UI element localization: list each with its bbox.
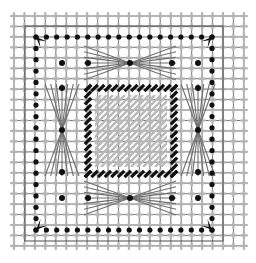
boundary-dot-right xyxy=(209,125,214,130)
boundary-dot-right xyxy=(209,159,214,164)
boundary-dot-bottom xyxy=(158,227,163,232)
interior-node-dot xyxy=(59,60,65,66)
interior-node-dot xyxy=(195,127,201,133)
boundary-dot-left xyxy=(33,137,38,142)
interior-node-dot xyxy=(195,195,201,201)
boundary-dot-left xyxy=(33,216,38,221)
interior-node-dot xyxy=(59,169,65,175)
boundary-dot-top xyxy=(168,34,173,39)
boundary-dot-right xyxy=(209,80,214,85)
interior-node-dot xyxy=(195,60,201,66)
boundary-dot-top xyxy=(116,34,121,39)
boundary-dot-top xyxy=(96,34,101,39)
boundary-dot-bottom xyxy=(178,227,183,232)
boundary-dot-left xyxy=(33,91,38,96)
boundary-dot-top xyxy=(199,34,204,39)
lattice-mesh-svg xyxy=(0,0,256,263)
boundary-dot-bottom xyxy=(44,227,49,232)
boundary-dot-top xyxy=(106,34,111,39)
boundary-dot-left xyxy=(33,57,38,62)
boundary-dot-right xyxy=(209,57,214,62)
boundary-dot-left xyxy=(33,171,38,176)
boundary-dot-right xyxy=(209,148,214,153)
boundary-dot-left xyxy=(33,159,38,164)
boundary-dot-bottom xyxy=(54,227,59,232)
boundary-dot-bottom xyxy=(85,227,90,232)
boundary-dot-right xyxy=(209,171,214,176)
boundary-dot-left xyxy=(33,80,38,85)
interior-node-dot xyxy=(127,60,133,66)
interior-node-dot xyxy=(59,127,65,133)
boundary-dot-top xyxy=(85,34,90,39)
interior-node-dot xyxy=(195,169,201,175)
boundary-dot-left xyxy=(33,46,38,51)
boundary-dot-bottom xyxy=(199,227,204,232)
boundary-dot-top xyxy=(147,34,152,39)
boundary-dot-left xyxy=(33,148,38,153)
boundary-dot-bottom xyxy=(75,227,80,232)
boundary-dot-right xyxy=(209,193,214,198)
boundary-dot-top xyxy=(137,34,142,39)
interior-node-dot xyxy=(195,85,201,91)
boundary-dot-bottom xyxy=(147,227,152,232)
boundary-dot-bottom xyxy=(168,227,173,232)
boundary-dot-top xyxy=(178,34,183,39)
boundary-dot-right xyxy=(209,137,214,142)
boundary-dot-right xyxy=(209,46,214,51)
boundary-dot-top xyxy=(189,34,194,39)
boundary-dot-right xyxy=(209,205,214,210)
boundary-dot-left xyxy=(33,125,38,130)
boundary-dot-top xyxy=(54,34,59,39)
boundary-dot-right xyxy=(209,103,214,108)
interior-node-dot xyxy=(59,195,65,201)
boundary-dot-bottom xyxy=(116,227,121,232)
boundary-dot-bottom xyxy=(96,227,101,232)
interior-node-dot xyxy=(127,195,133,201)
interior-node-dot xyxy=(59,85,65,91)
boundary-dot-left xyxy=(33,69,38,74)
boundary-dot-left xyxy=(33,205,38,210)
boundary-dot-left xyxy=(33,103,38,108)
boundary-dot-bottom xyxy=(65,227,70,232)
boundary-dot-top xyxy=(75,34,80,39)
boundary-dot-left xyxy=(33,193,38,198)
boundary-dot-right xyxy=(209,182,214,187)
boundary-dot-right xyxy=(209,91,214,96)
boundary-dot-bottom xyxy=(189,227,194,232)
boundary-dot-right xyxy=(209,69,214,74)
boundary-dot-bottom xyxy=(106,227,111,232)
interior-node-dot xyxy=(85,60,91,66)
boundary-dot-left xyxy=(33,114,38,119)
figure-root xyxy=(0,0,256,263)
interior-node-dot xyxy=(169,195,175,201)
interior-node-dot xyxy=(169,60,175,66)
boundary-dot-bottom xyxy=(137,227,142,232)
boundary-dot-right xyxy=(209,114,214,119)
boundary-dot-top xyxy=(65,34,70,39)
interior-node-dot xyxy=(85,195,91,201)
boundary-dot-top xyxy=(158,34,163,39)
boundary-dot-top xyxy=(44,34,49,39)
boundary-dot-left xyxy=(33,182,38,187)
boundary-dot-right xyxy=(209,216,214,221)
boundary-dot-top xyxy=(127,34,132,39)
boundary-dot-bottom xyxy=(127,227,132,232)
